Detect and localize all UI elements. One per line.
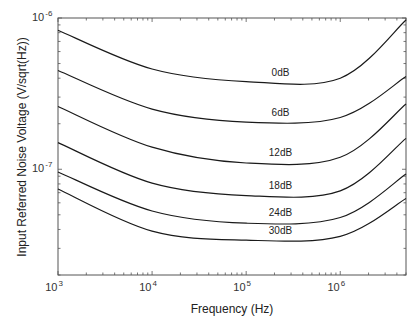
noise-chart: 0dB6dB12dB18dB24dB30dB 103104105106 10-6…	[0, 0, 417, 327]
x-tick-label: 103	[45, 279, 63, 293]
curve-label: 12dB	[269, 147, 293, 158]
x-tick-label: 106	[327, 279, 345, 293]
plot-area	[58, 18, 406, 275]
curve-18dB	[58, 138, 406, 197]
x-tick-label: 105	[233, 279, 251, 293]
y-tick-label: 10-6	[32, 9, 53, 23]
y-tick-label: 10-7	[32, 160, 53, 174]
curve-label: 24dB	[269, 207, 293, 218]
x-tick-label: 104	[139, 279, 157, 293]
curve-labels: 0dB6dB12dB18dB24dB30dB	[269, 67, 293, 236]
curve-label: 18dB	[269, 180, 293, 191]
x-tick-labels: 103104105106	[45, 279, 345, 293]
curve-24dB	[58, 172, 406, 224]
curve-0dB	[58, 20, 406, 84]
curve-label: 30dB	[269, 225, 293, 236]
curve-6dB	[58, 70, 406, 123]
x-axis-title: Frequency (Hz)	[191, 302, 274, 316]
curve-label: 6dB	[272, 107, 290, 118]
y-tick-labels: 10-610-7	[32, 9, 53, 174]
curves	[58, 20, 406, 241]
curve-30dB	[58, 189, 406, 241]
y-axis-title: Input Referred Noise Voltage (V/sqrt(Hz)…	[15, 37, 29, 256]
curve-12dB	[58, 104, 406, 165]
curve-label: 0dB	[272, 67, 290, 78]
axis-ticks	[58, 18, 406, 275]
